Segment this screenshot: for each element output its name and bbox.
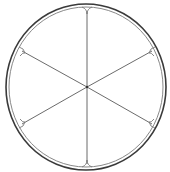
citrus-slice-illustration xyxy=(0,0,170,172)
citrus-slice-icon xyxy=(0,0,170,172)
center-point xyxy=(86,86,88,88)
